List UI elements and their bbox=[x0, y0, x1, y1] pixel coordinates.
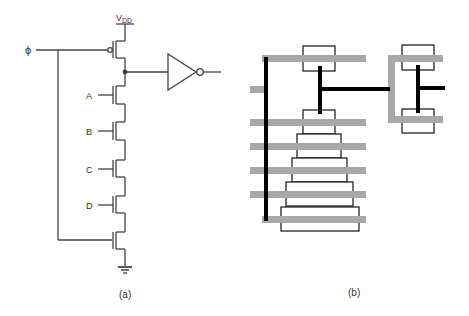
metal-node-to-inverter bbox=[318, 87, 390, 91]
stick-layout bbox=[250, 45, 445, 231]
input-label-d: D bbox=[86, 201, 93, 211]
nmos-transistor-b bbox=[98, 122, 125, 140]
poly-inv-top bbox=[388, 55, 443, 62]
domino-gate-figure: VDD ϕ A B C D (a) bbox=[0, 0, 469, 316]
inverter-bubble-icon bbox=[197, 69, 204, 76]
nmos-evaluate-transistor bbox=[113, 232, 125, 249]
input-label-b: B bbox=[86, 127, 92, 137]
poly-lines bbox=[250, 55, 443, 223]
metal-clock-bus bbox=[264, 57, 268, 221]
pmos-bubble-icon bbox=[108, 48, 113, 53]
caption-b: (b) bbox=[348, 287, 360, 298]
nmos-transistor-a bbox=[98, 86, 125, 104]
poly-inv-bottom bbox=[388, 116, 443, 123]
metal-inv-output bbox=[416, 86, 445, 90]
clock-label: ϕ bbox=[25, 44, 31, 56]
input-label-c: C bbox=[86, 165, 93, 175]
caption-a: (a) bbox=[119, 289, 131, 300]
poly-clock-pmos bbox=[262, 55, 366, 62]
inverter-icon bbox=[168, 54, 196, 90]
poly-clock-nmos bbox=[262, 216, 366, 223]
vdd-label: VDD bbox=[116, 13, 132, 24]
circuit-schematic bbox=[36, 24, 221, 273]
nmos-transistor-d bbox=[98, 196, 125, 213]
ground-icon bbox=[118, 267, 132, 273]
diffusion-regions bbox=[281, 45, 434, 231]
input-label-a: A bbox=[86, 91, 92, 101]
nmos-transistor-c bbox=[98, 160, 125, 177]
